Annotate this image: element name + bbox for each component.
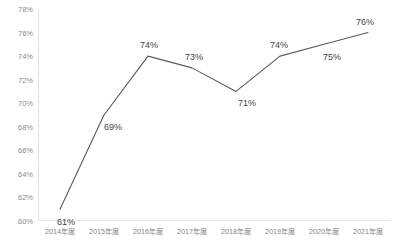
y-axis-tick-label: 60% bbox=[18, 217, 33, 226]
plot-area: 78%76%74%72%70%68%66%64%62%60% 61%69%74%… bbox=[38, 9, 390, 221]
data-label-7: 76% bbox=[356, 17, 374, 27]
data-label-4: 71% bbox=[238, 98, 256, 108]
y-axis-tick-label: 64% bbox=[18, 169, 33, 178]
x-axis-tick-label-2: 2016年度 bbox=[126, 226, 170, 240]
y-axis-tick-label: 66% bbox=[18, 146, 33, 155]
data-label-6: 75% bbox=[323, 52, 341, 62]
x-axis-tick-labels: 2014年度2015年度2016年度2017年度2018年度2019年度2020… bbox=[38, 226, 390, 240]
data-label-1: 69% bbox=[104, 122, 122, 132]
y-axis-tick-label: 76% bbox=[18, 28, 33, 37]
chart-title bbox=[0, 0, 396, 3]
x-axis-tick-label-3: 2017年度 bbox=[170, 226, 214, 240]
y-axis-tick-label: 68% bbox=[18, 122, 33, 131]
line-chart: 78%76%74%72%70%68%66%64%62%60% 61%69%74%… bbox=[0, 0, 396, 249]
x-axis-tick-label-1: 2015年度 bbox=[82, 226, 126, 240]
data-label-3: 73% bbox=[185, 52, 203, 62]
y-axis-tick-label: 72% bbox=[18, 75, 33, 84]
y-axis-tick-label: 78% bbox=[18, 5, 33, 14]
x-axis-tick-label-5: 2019年度 bbox=[258, 226, 302, 240]
x-axis-tick-label-6: 2020年度 bbox=[302, 226, 346, 240]
y-axis-tick-label: 74% bbox=[18, 52, 33, 61]
series-line bbox=[38, 9, 390, 221]
data-label-5: 74% bbox=[270, 40, 288, 50]
data-label-2: 74% bbox=[140, 40, 158, 50]
x-axis-tick-label-0: 2014年度 bbox=[38, 226, 82, 240]
y-axis-tick-label: 62% bbox=[18, 193, 33, 202]
x-axis-tick-label-7: 2021年度 bbox=[346, 226, 390, 240]
y-axis-tick-label: 70% bbox=[18, 99, 33, 108]
x-axis-tick-label-4: 2018年度 bbox=[214, 226, 258, 240]
